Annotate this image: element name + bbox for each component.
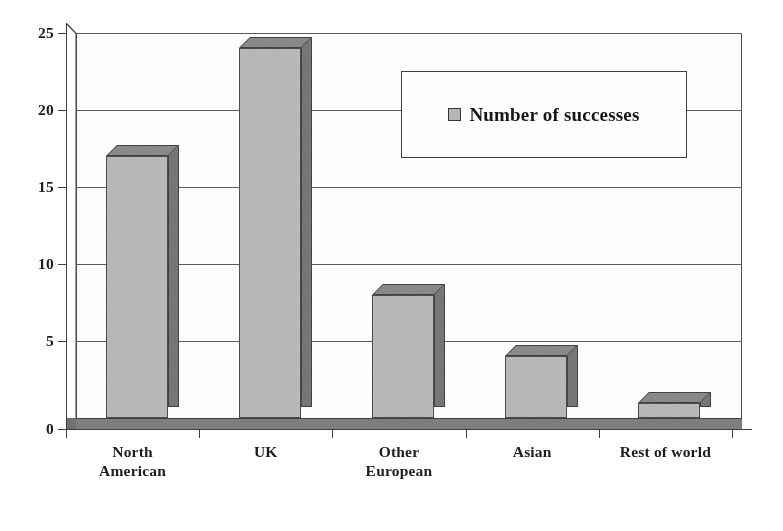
x-axis-tick	[199, 429, 200, 438]
x-axis-label-line: Asian	[466, 443, 599, 462]
x-axis-label-line: European	[332, 462, 465, 481]
x-axis-label-line: UK	[199, 443, 332, 462]
legend-entry-label: Number of successes	[469, 104, 639, 126]
y-axis-tick-label: 20	[12, 102, 54, 118]
bar-top-face	[239, 37, 312, 48]
y-axis-tick	[58, 33, 67, 34]
x-axis-label-line: American	[66, 462, 199, 481]
plot-floor-left-edge	[66, 418, 76, 429]
x-axis-tick	[332, 429, 333, 438]
y-axis-tick-label: 0	[12, 421, 54, 437]
bar-top-face	[106, 145, 179, 156]
x-axis-tick	[466, 429, 467, 438]
bar-side-face	[567, 345, 578, 407]
x-axis-tick-label: OtherEuropean	[332, 443, 465, 481]
x-axis-label-line: Other	[332, 443, 465, 462]
x-axis-tick	[66, 429, 67, 438]
x-axis-tick-label: Rest of world	[599, 443, 732, 462]
y-axis-tick-label: 15	[12, 179, 54, 195]
bar-front-face	[638, 403, 700, 418]
bar-side-face	[301, 37, 312, 407]
bar[interactable]	[106, 33, 179, 429]
axis-depth-lip	[66, 23, 76, 419]
y-axis-tick	[58, 264, 67, 265]
legend[interactable]: Number of successes	[401, 71, 687, 158]
bar-top-face	[372, 284, 445, 295]
y-axis-tick-label: 10	[12, 256, 54, 272]
x-axis-label-line: North	[66, 443, 199, 462]
bar-top-face	[505, 345, 578, 356]
bar-front-face	[372, 295, 434, 418]
legend-entry: Number of successes	[448, 104, 639, 126]
x-axis-line	[66, 429, 752, 430]
x-axis-tick	[732, 429, 733, 438]
y-axis-tick	[58, 187, 67, 188]
bar-top-face	[638, 392, 711, 403]
x-axis-tick-label: UK	[199, 443, 332, 462]
bar[interactable]	[239, 33, 312, 429]
y-axis-tick-label: 5	[12, 333, 54, 349]
y-axis-labels: 0510152025	[0, 0, 54, 440]
y-axis-line	[66, 23, 67, 429]
bar-front-face	[106, 156, 168, 418]
x-axis-label-line: Rest of world	[599, 443, 732, 462]
y-axis-tick	[58, 110, 67, 111]
legend-swatch-icon	[448, 108, 461, 121]
bar-front-face	[505, 356, 567, 418]
x-axis-tick-label: Asian	[466, 443, 599, 462]
bar-front-face	[239, 48, 301, 418]
x-axis-tick	[599, 429, 600, 438]
bar-side-face	[434, 284, 445, 407]
bar-chart: 0510152025 NorthAmericanUKOtherEuropeanA…	[0, 0, 783, 531]
x-axis-tick-label: NorthAmerican	[66, 443, 199, 481]
y-axis-tick	[58, 341, 67, 342]
bar-side-face	[168, 145, 179, 407]
y-axis-tick-label: 25	[12, 25, 54, 41]
